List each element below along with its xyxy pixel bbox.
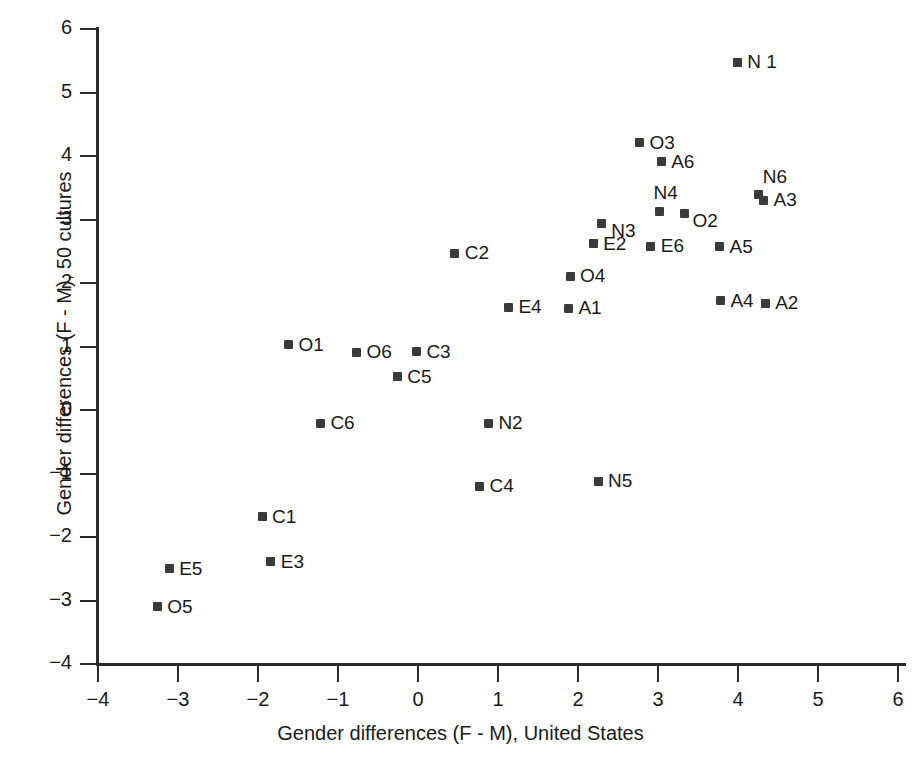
data-point-label: E3	[281, 551, 304, 573]
data-point-label: O2	[692, 210, 717, 232]
data-point-marker	[475, 482, 484, 491]
data-point-marker	[412, 347, 421, 356]
data-point-label: O5	[167, 596, 192, 618]
y-tick-label: 2	[18, 270, 72, 293]
data-point-label: C3	[426, 341, 450, 363]
data-point-marker	[284, 340, 293, 349]
data-point-label: A5	[730, 236, 753, 258]
data-point-marker	[589, 239, 598, 248]
y-tick-label: −4	[18, 651, 72, 674]
data-point-label: E6	[661, 235, 684, 257]
x-tick-label: 5	[793, 688, 843, 711]
x-tick-label: 6	[873, 688, 921, 711]
data-point-marker	[597, 219, 606, 228]
y-tick-mark	[80, 28, 97, 30]
y-tick-mark	[80, 92, 97, 94]
data-point-marker	[153, 602, 162, 611]
y-tick-label: 6	[18, 16, 72, 39]
data-point-marker	[566, 272, 575, 281]
y-tick-label: −1	[18, 461, 72, 484]
x-tick-label: −3	[153, 688, 203, 711]
x-tick-label: −2	[233, 688, 283, 711]
y-tick-mark	[80, 600, 97, 602]
data-point-marker	[165, 564, 174, 573]
y-tick-label: −2	[18, 524, 72, 547]
y-tick-label: 0	[18, 397, 72, 420]
x-tick-label: 0	[393, 688, 443, 711]
data-point-label: O1	[298, 334, 323, 356]
data-point-label: N2	[498, 412, 522, 434]
data-point-marker	[564, 304, 573, 313]
x-tick-label: 1	[473, 688, 523, 711]
data-point-label: A1	[578, 297, 601, 319]
data-point-label: C2	[465, 242, 489, 264]
y-tick-mark	[80, 536, 97, 538]
data-point-marker	[680, 209, 689, 218]
x-tick-label: −1	[313, 688, 363, 711]
data-point-marker	[594, 477, 603, 486]
data-point-label: A3	[774, 189, 797, 211]
y-tick-mark	[80, 219, 97, 221]
y-tick-mark	[80, 473, 97, 475]
data-point-label: A2	[775, 292, 798, 314]
data-point-label: E5	[179, 558, 202, 580]
y-tick-label: −3	[18, 588, 72, 611]
x-tick-mark	[897, 666, 899, 682]
x-tick-label: 4	[713, 688, 763, 711]
scatter-plot-figure: Gender differences (F - M), 50 cultures …	[0, 0, 921, 763]
data-point-marker	[316, 419, 325, 428]
y-tick-mark	[80, 409, 97, 411]
x-tick-mark	[817, 666, 819, 682]
data-point-label: O4	[580, 265, 605, 287]
data-point-marker	[761, 299, 770, 308]
x-tick-label: −4	[73, 688, 123, 711]
y-tick-label: 5	[18, 80, 72, 103]
x-axis-title: Gender differences (F - M), United State…	[0, 722, 921, 745]
data-point-label: N4	[654, 182, 678, 204]
data-point-label: C5	[407, 366, 431, 388]
data-point-label: C4	[490, 475, 514, 497]
data-point-marker	[504, 303, 513, 312]
data-point-marker	[258, 512, 267, 521]
data-point-label: N6	[763, 166, 787, 188]
y-tick-mark	[80, 282, 97, 284]
x-axis-line	[96, 663, 906, 666]
data-point-marker	[352, 348, 361, 357]
data-point-marker	[646, 242, 655, 251]
x-tick-mark	[577, 666, 579, 682]
x-tick-mark	[497, 666, 499, 682]
data-point-label: E4	[518, 296, 541, 318]
data-point-marker	[733, 58, 742, 67]
x-tick-mark	[97, 666, 99, 682]
data-point-marker	[266, 557, 275, 566]
data-point-marker	[393, 372, 402, 381]
y-tick-mark	[80, 155, 97, 157]
data-point-label: C1	[272, 506, 296, 528]
data-point-label: E2	[603, 233, 626, 255]
x-tick-mark	[417, 666, 419, 682]
data-point-label: O6	[366, 341, 391, 363]
y-tick-label: 4	[18, 143, 72, 166]
data-point-marker	[450, 249, 459, 258]
data-point-marker	[635, 138, 644, 147]
data-point-marker	[657, 157, 666, 166]
x-tick-label: 2	[553, 688, 603, 711]
y-tick-mark	[80, 346, 97, 348]
data-point-label: A4	[730, 290, 753, 312]
data-point-marker	[484, 419, 493, 428]
x-tick-mark	[257, 666, 259, 682]
x-tick-mark	[337, 666, 339, 682]
x-tick-mark	[657, 666, 659, 682]
data-point-label: A6	[671, 151, 694, 173]
x-tick-mark	[177, 666, 179, 682]
x-tick-mark	[737, 666, 739, 682]
x-tick-label: 3	[633, 688, 683, 711]
data-point-marker	[715, 242, 724, 251]
data-point-marker	[655, 207, 664, 216]
data-point-label: N 1	[747, 51, 777, 73]
data-point-label: C6	[330, 412, 354, 434]
data-point-marker	[716, 296, 725, 305]
data-point-label: N5	[608, 470, 632, 492]
y-tick-label: 3	[18, 207, 72, 230]
y-tick-label: 1	[18, 334, 72, 357]
